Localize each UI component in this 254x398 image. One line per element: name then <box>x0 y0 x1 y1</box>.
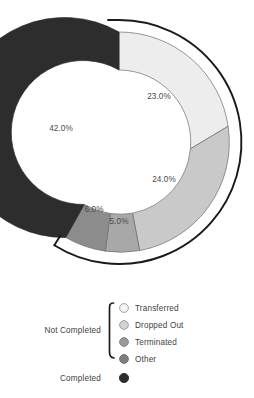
slice-dropped-out[interactable] <box>133 126 230 250</box>
legend-item-terminated[interactable]: Terminated <box>120 338 178 347</box>
slice-label-transferred: 23.0% <box>147 92 171 101</box>
legend-swatch-terminated <box>120 338 129 347</box>
slice-label-completed: 42.0% <box>49 124 73 133</box>
legend-label-other: Other <box>135 355 156 364</box>
donut-chart: 23.0% 24.0% 5.0% 6.0% 42.0% Not Complete… <box>0 0 254 398</box>
slice-transferred[interactable] <box>119 32 228 149</box>
chart-page: 23.0% 24.0% 5.0% 6.0% 42.0% Not Complete… <box>0 0 254 398</box>
legend-label-terminated: Terminated <box>135 338 177 347</box>
legend-label-transferred: Transferred <box>135 304 179 313</box>
legend-swatch-completed <box>119 373 128 382</box>
legend-swatch-dropped-out <box>120 321 129 330</box>
legend-item-transferred[interactable]: Transferred <box>120 304 179 313</box>
legend-item-other[interactable]: Other <box>120 355 157 364</box>
slice-label-dropped-out: 24.0% <box>152 175 176 184</box>
legend-brace <box>110 303 115 358</box>
legend-group-completed: Completed <box>60 374 101 383</box>
legend-group-not-completed: Not Completed <box>44 326 101 335</box>
legend-swatch-transferred <box>120 304 129 313</box>
legend-item-dropped-out[interactable]: Dropped Out <box>120 321 185 330</box>
legend-item-completed[interactable] <box>119 373 128 382</box>
slice-label-terminated: 5.0% <box>109 217 128 226</box>
legend-label-dropped-out: Dropped Out <box>135 321 184 330</box>
legend-swatch-other <box>120 355 129 364</box>
slice-label-other: 6.0% <box>84 205 103 214</box>
